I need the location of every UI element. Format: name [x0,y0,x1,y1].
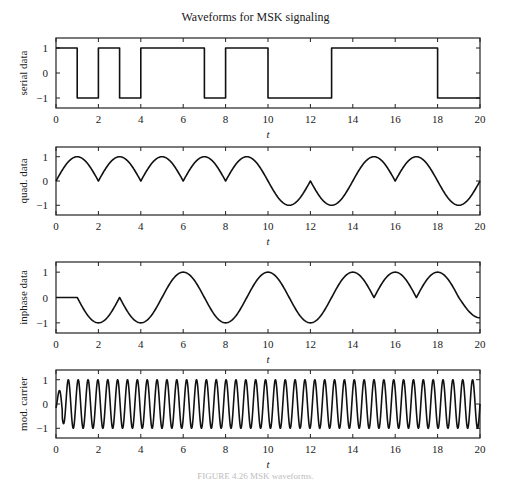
x-tick-label: 18 [432,443,444,455]
x-tick-label: 16 [390,220,402,232]
mod-carrier-plot: 02468101214161820−101tmod. carrier [17,370,486,470]
x-tick-label: 10 [263,443,275,455]
x-tick-label: 4 [138,113,144,125]
y-tick-label: 0 [43,67,49,79]
x-axis-label: t [266,128,270,140]
x-tick-label: 6 [180,113,186,125]
y-axis-label: quad. data [17,158,29,203]
x-tick-label: 18 [432,113,444,125]
x-tick-label: 14 [347,113,359,125]
x-tick-label: 8 [223,113,229,125]
y-tick-label: 1 [43,151,49,163]
msk-waveform-figure: 02468101214161820−101tserial data0246810… [0,0,511,487]
y-tick-label: −1 [36,199,48,211]
x-tick-label: 8 [223,338,229,350]
x-tick-label: 0 [53,220,59,232]
y-axis-label: inphase data [17,270,29,325]
y-tick-label: 1 [43,374,49,386]
x-tick-label: 10 [263,220,275,232]
y-axis-label: mod. carrier [17,377,29,431]
x-tick-label: 8 [223,443,229,455]
x-tick-label: 12 [305,220,316,232]
y-tick-label: −1 [36,422,48,434]
x-tick-label: 8 [223,220,229,232]
x-tick-label: 10 [263,338,275,350]
x-tick-label: 6 [180,220,186,232]
x-tick-label: 20 [475,220,487,232]
x-tick-label: 20 [475,338,487,350]
x-tick-label: 20 [475,443,487,455]
x-tick-label: 4 [138,338,144,350]
x-axis-label: t [266,235,270,247]
x-tick-label: 6 [180,338,186,350]
y-tick-label: 1 [43,266,49,278]
y-tick-label: 1 [43,42,49,54]
x-tick-label: 4 [138,220,144,232]
y-tick-label: 0 [43,175,49,187]
waveform-line [56,380,480,429]
y-tick-label: 0 [43,292,49,304]
x-tick-label: 4 [138,443,144,455]
y-tick-label: −1 [36,92,48,104]
waveform-line [56,48,480,98]
x-tick-label: 6 [180,443,186,455]
inphase-data-plot: 02468101214161820−101tinphase data [17,262,486,365]
x-axis-label: t [266,353,270,365]
y-axis-label: serial data [17,50,29,95]
x-tick-label: 14 [347,443,359,455]
x-tick-label: 0 [53,113,59,125]
serial-data-plot: 02468101214161820−101tserial data [17,38,486,140]
x-tick-label: 2 [96,443,102,455]
x-tick-label: 2 [96,338,102,350]
y-tick-label: −1 [36,317,48,329]
x-tick-label: 20 [475,113,487,125]
figure-caption: FIGURE 4.26 MSK waveforms. [0,471,511,481]
x-tick-label: 18 [432,220,444,232]
x-tick-label: 14 [347,220,359,232]
x-tick-label: 2 [96,113,102,125]
x-tick-label: 0 [53,443,59,455]
x-tick-label: 14 [347,338,359,350]
x-tick-label: 16 [390,338,402,350]
waveform-line [56,272,480,323]
x-tick-label: 10 [263,113,275,125]
quad-data-plot: 02468101214161820−101tquad. data [17,147,486,247]
x-tick-label: 12 [305,338,316,350]
x-tick-label: 0 [53,338,59,350]
waveform-line [56,157,480,206]
x-tick-label: 12 [305,443,316,455]
x-tick-label: 18 [432,338,444,350]
x-tick-label: 16 [390,113,402,125]
x-tick-label: 12 [305,113,316,125]
x-tick-label: 2 [96,220,102,232]
y-tick-label: 0 [43,398,49,410]
x-tick-label: 16 [390,443,402,455]
x-axis-label: t [266,458,270,470]
